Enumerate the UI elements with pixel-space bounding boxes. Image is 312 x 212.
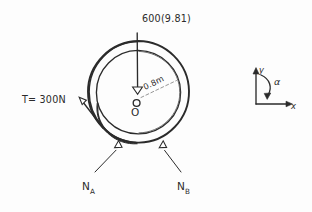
normal-b-base: N bbox=[177, 180, 185, 192]
tension-force-arrow bbox=[79, 97, 103, 128]
diagram-canvas: T= 300N 600(9.81) 0.8m N A bbox=[0, 0, 312, 212]
normal-b-subscript: B bbox=[185, 187, 190, 196]
radius-label: 0.8m bbox=[141, 73, 165, 92]
alpha-label: α bbox=[274, 76, 281, 87]
weight-label: 600(9.81) bbox=[142, 13, 191, 24]
coordinate-axes-inset: y x α bbox=[253, 65, 297, 111]
alpha-arc bbox=[261, 75, 270, 95]
x-axis-label: x bbox=[290, 101, 297, 111]
normal-force-b-arrow bbox=[159, 141, 181, 172]
center-label: O bbox=[131, 106, 139, 118]
y-axis-label: y bbox=[258, 65, 265, 75]
normal-force-a-label: N A bbox=[82, 180, 95, 196]
normal-force-b-label: N B bbox=[177, 180, 190, 196]
tension-label: T= 300N bbox=[21, 94, 66, 105]
free-body-diagram-figure: T= 300N 600(9.81) 0.8m N A bbox=[0, 0, 312, 212]
alpha-arrowhead bbox=[264, 93, 271, 99]
normal-force-a-arrow bbox=[95, 141, 122, 172]
normal-a-subscript: A bbox=[90, 187, 95, 196]
normal-a-base: N bbox=[82, 180, 90, 192]
